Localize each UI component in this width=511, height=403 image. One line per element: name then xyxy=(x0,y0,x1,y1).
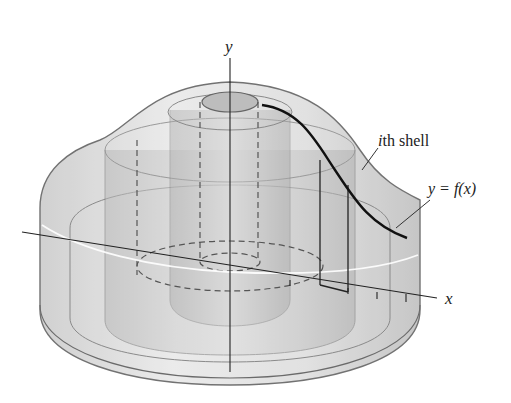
shell-method-diagram: y x ith shell y = f(x) xyxy=(0,0,511,403)
y-axis-label: y xyxy=(223,37,233,56)
ith-shell-label: ith shell xyxy=(378,132,430,149)
curve-label: y = f(x) xyxy=(426,180,476,198)
diagram-canvas: y x ith shell y = f(x) xyxy=(0,0,511,403)
ith-shell-label-rest: th shell xyxy=(382,132,429,149)
x-axis-label: x xyxy=(444,289,453,308)
